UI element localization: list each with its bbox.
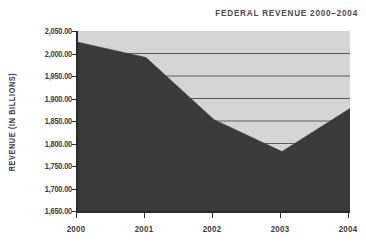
x-axis-tick-mark bbox=[348, 213, 349, 218]
x-axis-tick-mark bbox=[280, 213, 281, 218]
y-axis-tick-label: 1,800.00 bbox=[16, 139, 72, 148]
y-axis-tick-label: 2,050.00 bbox=[16, 27, 72, 36]
area-series-federal-revenue bbox=[78, 42, 350, 211]
x-axis-tick-label: 2004 bbox=[339, 224, 358, 234]
y-axis-tick-label: 1,850.00 bbox=[16, 117, 72, 126]
y-axis-tick-label: 1,950.00 bbox=[16, 72, 72, 81]
x-axis-tick-label: 2001 bbox=[135, 224, 154, 234]
y-axis-tick-label: 1,900.00 bbox=[16, 94, 72, 103]
y-axis-ticks: 1,650.001,700.001,750.001,800.001,850.00… bbox=[6, 31, 72, 211]
x-axis-tick-label: 2003 bbox=[271, 224, 290, 234]
plot-area bbox=[76, 31, 350, 213]
y-axis-tick-label: 1,750.00 bbox=[16, 162, 72, 171]
chart-title: FEDERAL REVENUE 2000–2004 bbox=[215, 7, 358, 18]
x-axis-ticks: 20002001200220032004 bbox=[76, 213, 350, 241]
x-axis-tick-mark bbox=[212, 213, 213, 218]
area-chart-svg bbox=[78, 31, 350, 211]
y-axis-tick-label: 2,000.00 bbox=[16, 49, 72, 58]
x-axis-tick-mark bbox=[76, 213, 77, 218]
x-axis-tick-mark bbox=[144, 213, 145, 218]
chart-container: FEDERAL REVENUE 2000–2004 REVENUE (IN BI… bbox=[0, 0, 366, 244]
x-axis-tick-label: 2000 bbox=[67, 224, 86, 234]
y-axis-tick-label: 1,700.00 bbox=[16, 184, 72, 193]
y-axis-tick-label: 1,650.00 bbox=[16, 207, 72, 216]
x-axis-tick-label: 2002 bbox=[203, 224, 222, 234]
